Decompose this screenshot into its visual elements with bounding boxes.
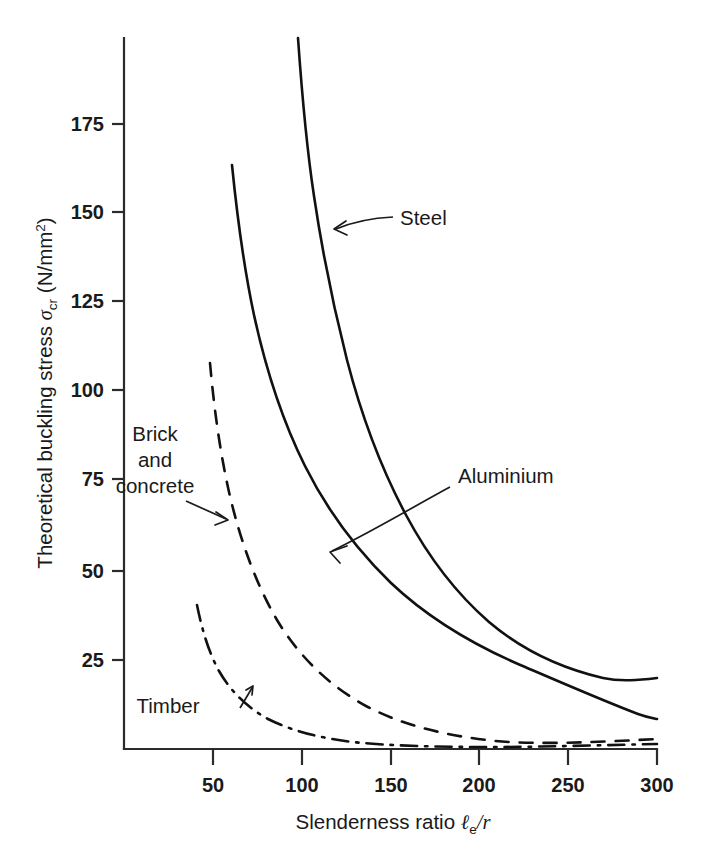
chart-canvas: 175 150 125 100 75 50 25 50 100 150 200 … — [0, 0, 712, 861]
x-tick-label-300: 300 — [640, 774, 673, 796]
buckling-stress-chart: 175 150 125 100 75 50 25 50 100 150 200 … — [0, 0, 712, 861]
x-axis-title-sub: e — [469, 822, 477, 837]
curve-aluminium — [232, 165, 657, 719]
annotation-timber: Timber — [136, 686, 253, 717]
y-axis-title-sub: cr — [45, 298, 60, 310]
x-tick-label-50: 50 — [202, 774, 224, 796]
y-axis-title-main: Theoretical buckling stress — [33, 320, 56, 568]
brick-leader-line — [186, 501, 226, 519]
x-tick-label-250: 250 — [551, 774, 584, 796]
y-tick-label-75: 75 — [82, 468, 104, 490]
steel-label: Steel — [400, 206, 447, 229]
y-axis-ticks — [112, 124, 124, 660]
x-axis-tick-labels: 50 100 150 200 250 300 — [202, 774, 674, 796]
brick-arrow-head — [215, 512, 228, 525]
y-axis-title-unit-close: ) — [33, 217, 56, 224]
y-axis-title: Theoretical buckling stress σcr (N/mm2) — [33, 217, 60, 568]
curve-timber — [197, 605, 657, 747]
y-tick-label-150: 150 — [71, 201, 104, 223]
x-axis-ticks — [213, 749, 657, 765]
steel-leader-line — [336, 217, 393, 229]
y-tick-label-175: 175 — [71, 113, 104, 135]
svg-text:Slenderness ratio ℓe/r: Slenderness ratio ℓe/r — [296, 810, 492, 837]
y-tick-label-100: 100 — [71, 379, 104, 401]
annotation-steel: Steel — [334, 206, 447, 235]
y-axis-tick-labels: 175 150 125 100 75 50 25 — [71, 113, 104, 671]
aluminium-arrow-head — [330, 546, 347, 563]
y-axis-title-unit-sup: 2 — [33, 224, 48, 232]
curve-brick-concrete — [210, 363, 657, 743]
brick-label-line-3: concrete — [116, 474, 195, 497]
x-tick-label-100: 100 — [285, 774, 318, 796]
x-tick-label-200: 200 — [462, 774, 495, 796]
y-tick-label-50: 50 — [82, 560, 104, 582]
aluminium-label: Aluminium — [458, 464, 554, 487]
y-tick-label-125: 125 — [71, 290, 104, 312]
x-axis-title: Slenderness ratio ℓe/r — [296, 810, 492, 837]
x-axis-title-main: Slenderness ratio — [296, 810, 461, 833]
svg-text:Theoretical buckling stress σc: Theoretical buckling stress σcr (N/mm2) — [33, 217, 60, 568]
aluminium-leader-line — [332, 487, 450, 551]
annotation-brick-concrete: Brick and concrete — [116, 422, 228, 525]
brick-label-line-2: and — [138, 448, 172, 471]
x-tick-label-150: 150 — [374, 774, 407, 796]
curve-steel — [298, 38, 657, 680]
y-tick-label-25: 25 — [82, 649, 104, 671]
y-axis-title-unit-open: (N/mm — [33, 232, 56, 299]
axis-frame — [124, 38, 657, 749]
timber-label: Timber — [136, 694, 199, 717]
x-axis-title-tail: /r — [476, 811, 492, 833]
annotation-aluminium: Aluminium — [330, 464, 554, 563]
brick-label-line-1: Brick — [132, 422, 178, 445]
